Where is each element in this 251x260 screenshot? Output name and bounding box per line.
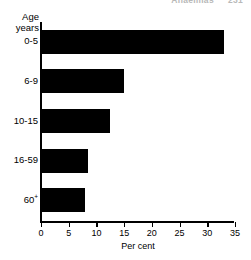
- x-axis-tick-label: 15: [112, 228, 136, 238]
- y-axis-title: Age years: [0, 11, 39, 33]
- y-axis-title-line-2: years: [0, 22, 39, 33]
- bar: [41, 109, 110, 133]
- y-axis-tick-label: 60+: [0, 195, 38, 205]
- bar: [41, 69, 124, 93]
- y-axis-tick-label: 6-9: [0, 76, 38, 86]
- x-axis-tick: [69, 222, 70, 227]
- bar: [41, 30, 224, 54]
- x-axis-tick-label: 5: [57, 228, 81, 238]
- bar: [41, 149, 88, 173]
- x-axis-tick-label: 10: [84, 228, 108, 238]
- x-axis-title: Per cent: [41, 241, 235, 251]
- x-axis-tick-label: 25: [168, 228, 192, 238]
- bar: [41, 188, 85, 212]
- x-axis-tick: [124, 222, 125, 227]
- bar-chart: Age years 0-56-910-1516-5960+ 0510152025…: [0, 0, 251, 260]
- x-axis-tick-label: 20: [140, 228, 164, 238]
- y-axis-tick-label: 10-15: [0, 116, 38, 126]
- x-axis-tick-label: 30: [195, 228, 219, 238]
- y-axis-title-line-1: Age: [0, 11, 39, 22]
- x-axis-tick: [180, 222, 181, 227]
- x-axis-tick: [96, 222, 97, 227]
- x-axis-tick-label: 0: [29, 228, 53, 238]
- x-axis-tick: [207, 222, 208, 227]
- x-axis-tick-label: 35: [223, 228, 247, 238]
- x-axis-tick: [41, 222, 42, 227]
- plot-area: [41, 22, 235, 220]
- x-axis-tick: [152, 222, 153, 227]
- y-axis-tick-label: 0-5: [0, 36, 38, 46]
- x-axis-tick: [235, 222, 236, 227]
- y-axis-tick-label: 16-59: [0, 155, 38, 165]
